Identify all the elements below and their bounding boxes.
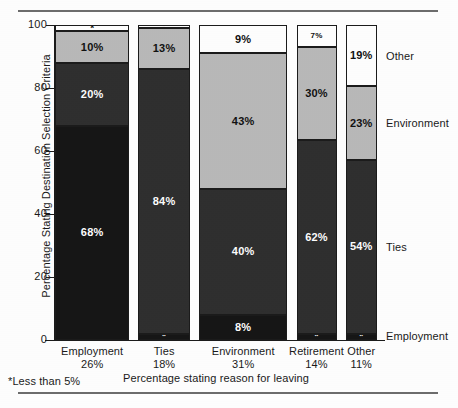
x-axis-title: Percentage stating reason for leaving — [55, 372, 377, 384]
segment-value-label: 62% — [305, 232, 328, 243]
bar-employment[interactable]: *10%20%68% — [55, 25, 129, 340]
bar-segment-employment[interactable]: 68% — [55, 126, 129, 340]
plot-area: *10%20%68%*13%84%*9%43%40%8%7%30%62%*19%… — [55, 25, 377, 340]
segment-value-label: * — [359, 334, 363, 340]
bar-segment-ties[interactable]: 62% — [297, 140, 337, 333]
bar-segment-employment[interactable]: * — [297, 334, 337, 340]
bar-segment-environment[interactable]: 23% — [346, 86, 377, 160]
segment-value-label: 54% — [350, 241, 373, 252]
y-axis-tick — [46, 214, 55, 215]
bar-segment-environment[interactable]: 10% — [55, 31, 129, 63]
x-category-percentage: 11% — [324, 358, 399, 371]
y-axis-tick — [46, 151, 55, 152]
y-axis-tick — [46, 277, 55, 278]
bar-segment-environment[interactable]: 30% — [297, 47, 337, 141]
bar-segment-ties[interactable]: 20% — [55, 63, 129, 126]
y-axis-tick-label: 60 — [34, 145, 47, 156]
stacked-bar-chart-figure: Percentage Stating Destination Selection… — [0, 0, 458, 408]
segment-value-label: 13% — [153, 43, 176, 54]
bar-segment-employment[interactable]: 8% — [199, 315, 288, 340]
segment-value-label: 7% — [311, 30, 323, 41]
bar-other[interactable]: 19%23%54%* — [346, 25, 377, 340]
y-axis-tick-label: 0 — [41, 334, 47, 345]
bar-retirement[interactable]: 7%30%62%* — [297, 25, 337, 340]
bar-segment-other[interactable]: 19% — [346, 25, 377, 86]
segment-value-label: 84% — [153, 196, 176, 207]
y-axis-tick-label: 80 — [34, 82, 47, 93]
segment-value-label: 40% — [232, 246, 255, 257]
segment-value-label: 8% — [235, 322, 251, 333]
y-axis-tick-label: 20 — [34, 271, 47, 282]
segment-value-label: 9% — [235, 34, 251, 45]
segment-value-label: * — [162, 334, 166, 340]
footnote: *Less than 5% — [8, 375, 80, 387]
bar-environment[interactable]: 9%43%40%8% — [199, 25, 288, 340]
x-category-other: Other11% — [324, 345, 399, 371]
segment-value-label: 68% — [81, 227, 104, 238]
bar-segment-other[interactable]: 9% — [199, 25, 288, 53]
series-label-employment: Employment — [386, 331, 448, 342]
bar-segment-ties[interactable]: 40% — [199, 189, 288, 315]
bar-segment-environment[interactable]: 13% — [138, 28, 189, 69]
bar-segment-employment[interactable]: * — [346, 334, 377, 340]
y-axis-tick-label: 40 — [34, 208, 47, 219]
segment-value-label: 19% — [350, 50, 373, 61]
bar-segment-ties[interactable]: 54% — [346, 160, 377, 334]
top-horizontal-rule — [18, 10, 438, 12]
series-label-ties: Ties — [386, 242, 407, 253]
bottom-horizontal-rule — [18, 392, 438, 394]
x-category-name: Other — [324, 345, 399, 358]
bar-ties[interactable]: *13%84%* — [138, 25, 189, 340]
y-axis-tick — [46, 340, 55, 341]
segment-value-label: * — [314, 334, 318, 340]
y-axis-tick — [46, 25, 55, 26]
bar-segment-ties[interactable]: 84% — [138, 69, 189, 334]
series-label-other: Other — [386, 51, 414, 62]
y-axis-tick — [46, 88, 55, 89]
x-axis-line — [45, 340, 385, 341]
segment-value-label: 43% — [232, 116, 255, 127]
series-label-environment: Environment — [386, 118, 449, 129]
bar-segment-other[interactable]: 7% — [297, 25, 337, 47]
bar-segment-environment[interactable]: 43% — [199, 53, 288, 188]
bar-segment-employment[interactable]: * — [138, 334, 189, 340]
y-axis-tick-label: 100 — [28, 19, 47, 30]
segment-value-label: 10% — [81, 42, 104, 53]
segment-value-label: 20% — [81, 89, 104, 100]
segment-value-label: 23% — [350, 118, 373, 129]
segment-value-label: 30% — [305, 88, 328, 99]
